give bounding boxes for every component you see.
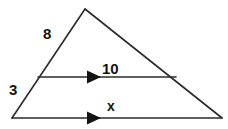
base-arrow-icon <box>87 112 101 125</box>
label-left-lower-side: 3 <box>9 82 17 97</box>
geometry-figure: 8 3 10 x <box>0 0 228 129</box>
label-base: x <box>107 99 115 113</box>
midsegment-arrow-icon <box>87 71 101 84</box>
label-midsegment: 10 <box>102 61 119 76</box>
label-left-upper-side: 8 <box>43 26 51 41</box>
